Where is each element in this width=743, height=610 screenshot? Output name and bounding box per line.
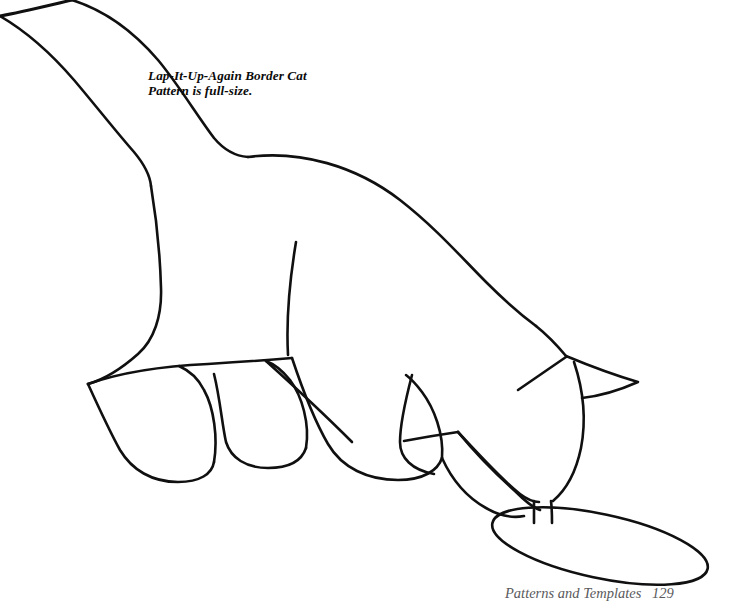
muzzle-back-contour <box>458 432 539 502</box>
head-cheek-jaw <box>553 362 584 501</box>
footer-section-label: Patterns and Templates <box>505 585 641 601</box>
pattern-page: Lap-It-Up-Again Border Cat Pattern is fu… <box>0 0 743 610</box>
rump-haunch <box>88 186 161 384</box>
hind-leg-rear-front-edge <box>179 366 216 462</box>
forward-front-leg-top-edge <box>404 432 458 441</box>
neck-to-head <box>536 326 566 356</box>
saucer-bowl <box>486 492 714 600</box>
chest-and-rear-front-leg <box>292 358 442 480</box>
pattern-caption: Lap-It-Up-Again Border Cat Pattern is fu… <box>148 68 307 99</box>
artwork-strokes <box>0 0 714 600</box>
caption-line-2: Pattern is full-size. <box>148 83 307 98</box>
cat-pattern-artwork <box>0 0 743 610</box>
front-leg-interior-line <box>400 375 434 474</box>
hind-leg-front <box>214 374 306 468</box>
hind-leg-front-back-edge <box>266 361 307 448</box>
footer-page-number: 129 <box>652 585 674 601</box>
hind-leg-rear <box>88 384 214 482</box>
rear-front-leg-front-edge <box>406 375 442 458</box>
page-footer: Patterns and Templates 129 <box>505 585 674 602</box>
caption-line-1: Lap-It-Up-Again Border Cat <box>148 68 307 83</box>
tail-lower-edge <box>0 16 151 186</box>
muzzle-right-side <box>551 501 552 523</box>
ear-inner-fold-line <box>518 357 566 390</box>
tail <box>0 0 72 16</box>
ear <box>566 356 638 398</box>
shoulder-blade-line <box>287 242 296 355</box>
back-spine <box>248 155 536 326</box>
